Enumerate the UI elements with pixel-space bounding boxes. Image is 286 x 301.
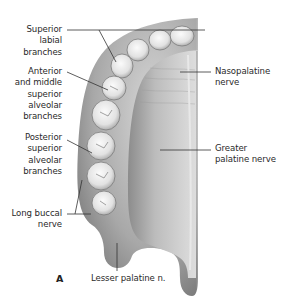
first-premolar [111,54,133,78]
label-nasopalatine-nerve: Nasopalatine nerve [215,66,285,89]
panel-letter: A [56,273,63,284]
label-long-buccal-nerve: Long buccal nerve [4,208,62,231]
second-molar [87,132,115,160]
anatomy-figure: Superior labial branches Anterior and mi… [0,0,286,301]
label-posterior-superior-alveolar: Posterior superior alveolar branches [10,132,62,177]
label-anterior-middle-superior-alveolar: Anterior and middle superior alveolar br… [8,66,62,122]
fourth-tooth [92,191,116,215]
central-incisor [170,26,194,46]
third-molar [87,162,115,190]
label-lesser-palatine-nerve: Lesser palatine n. [91,273,181,284]
label-superior-labial-branches: Superior labial branches [10,24,62,58]
label-greater-palatine-nerve: Greater palatine nerve [215,143,285,166]
lateral-incisor [149,30,171,50]
